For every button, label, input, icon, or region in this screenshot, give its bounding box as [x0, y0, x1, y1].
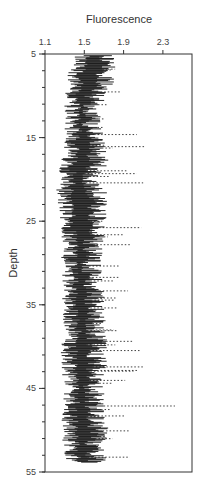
y-tick-label: 35	[26, 300, 36, 310]
y-tick-label: 5	[31, 49, 36, 59]
x-tick-label: 1.9	[117, 37, 130, 47]
y-tick-label: 55	[26, 467, 36, 477]
y-tick-label: 45	[26, 383, 36, 393]
x-axis: 1.11.51.92.3	[39, 37, 169, 54]
y-axis-title: Depth	[7, 248, 19, 277]
x-tick-label: 1.5	[78, 37, 91, 47]
x-tick-label: 1.1	[39, 37, 52, 47]
y-tick-label: 25	[26, 216, 36, 226]
y-axis: 51525354555	[26, 49, 45, 477]
x-axis-title: Fluorescence	[86, 13, 152, 25]
y-tick-label: 15	[26, 133, 36, 143]
x-tick-label: 2.3	[157, 37, 170, 47]
fluorescence-depth-chart: 1.11.51.92.3 51525354555 Fluorescence De…	[0, 0, 205, 493]
plot-area	[56, 56, 174, 462]
